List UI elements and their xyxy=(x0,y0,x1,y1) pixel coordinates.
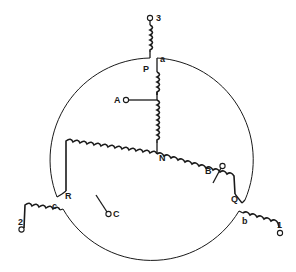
label-node-R: R xyxy=(65,191,72,201)
label-terminal-2: 2 xyxy=(18,217,23,227)
enclosure-circle xyxy=(50,58,253,260)
label-terminal-1: 1 xyxy=(277,220,282,230)
terminal-2[interactable] xyxy=(19,227,24,232)
star-winding-diagram: 3 a P A N B Q b 1 R C c 2 xyxy=(0,0,296,272)
label-node-P: P xyxy=(143,64,149,74)
winding-N-R xyxy=(62,139,157,216)
label-tap-A: A xyxy=(114,95,121,105)
label-terminal-3: 3 xyxy=(156,13,161,23)
terminal-3[interactable] xyxy=(147,15,152,20)
label-line-c: c xyxy=(52,201,57,211)
label-tap-C: C xyxy=(113,209,120,219)
winding-N-Q xyxy=(157,153,242,203)
label-neutral-N: N xyxy=(159,153,166,163)
gap-a-step xyxy=(150,52,157,64)
label-node-Q: Q xyxy=(231,194,238,204)
label-line-b: b xyxy=(242,216,248,226)
winding-P-N xyxy=(123,64,159,154)
tap-B-lead xyxy=(213,168,221,183)
terminal-C[interactable] xyxy=(106,211,111,216)
terminal-A[interactable] xyxy=(123,97,128,102)
terminal-1[interactable] xyxy=(277,230,282,235)
label-tap-B: B xyxy=(205,166,212,176)
terminal-B[interactable] xyxy=(220,163,225,168)
lead-3 xyxy=(147,15,152,52)
tap-C-lead xyxy=(96,195,107,212)
